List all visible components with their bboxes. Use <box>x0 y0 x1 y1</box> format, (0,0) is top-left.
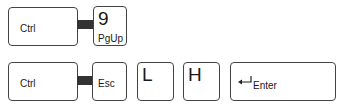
esc-key: Esc <box>92 62 127 101</box>
enter-arrow-icon <box>237 75 253 87</box>
l-key-label: L <box>142 65 153 84</box>
key-combination-connector <box>77 20 94 29</box>
enter-key-label: Enter <box>253 80 277 91</box>
ctrl-key-row2: Ctrl <box>8 62 78 101</box>
pgup-9-key: 9 PgUp <box>93 6 127 46</box>
pgup-key-sub-label: PgUp <box>98 33 123 44</box>
ctrl-key-label: Ctrl <box>20 78 36 89</box>
esc-key-label: Esc <box>98 78 115 89</box>
enter-key: Enter <box>230 62 336 101</box>
h-key-label: H <box>188 65 202 84</box>
pgup-key-main-label: 9 <box>98 9 109 28</box>
key-combination-connector <box>77 76 93 85</box>
h-key: H <box>183 62 220 101</box>
ctrl-key-row1: Ctrl <box>8 7 78 46</box>
ctrl-key-label: Ctrl <box>20 23 36 34</box>
l-key: L <box>137 62 174 101</box>
